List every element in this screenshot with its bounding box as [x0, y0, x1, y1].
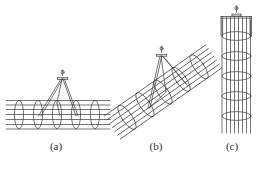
- panel-c-vertical-cage: [221, 6, 252, 133]
- panel-c-vertical-bars: [222, 17, 251, 133]
- panel-b-longitudinal-bars: [104, 45, 222, 139]
- panel-a-horizontal-cage: [6, 70, 110, 129]
- panel-c-lifting-hook: [232, 6, 241, 16]
- panel-c-caption: (c): [212, 140, 252, 152]
- panel-a-caption: (a): [36, 140, 76, 152]
- panel-a-lifting-hook: [58, 70, 68, 79]
- panel-a-longitudinal-bars: [6, 101, 110, 130]
- panel-b-caption: (b): [136, 140, 176, 152]
- panel-b-lifting-hook: [157, 46, 167, 56]
- figure-rebar-cage-lifting: (a) (b) (c): [0, 0, 264, 169]
- panel-a-sling-legs: [39, 79, 79, 116]
- panel-b-inclined-cage: [104, 45, 222, 140]
